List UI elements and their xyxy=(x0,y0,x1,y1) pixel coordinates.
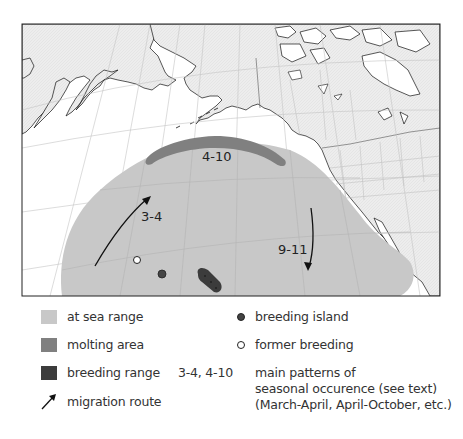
legend-pattern-code: 3-4, 4-10 xyxy=(178,365,243,381)
legend-pattern-description: main patterns of seasonal occurence (see… xyxy=(255,365,452,413)
former-breeding-icon xyxy=(237,341,245,349)
at-sea-range-swatch xyxy=(41,310,57,324)
legend-label: migration route xyxy=(67,394,161,409)
breeding-island-marker xyxy=(158,270,166,278)
legend-molting-area: molting area xyxy=(41,337,144,352)
molting-area-swatch xyxy=(41,338,57,352)
pattern-line: (March-April, April-October, etc.) xyxy=(255,397,452,413)
migration-arrow-icon xyxy=(41,392,57,410)
legend-breeding-island: breeding island xyxy=(237,309,348,324)
legend-label: molting area xyxy=(67,337,144,352)
pattern-line: seasonal occurence (see text) xyxy=(255,381,452,397)
fall-migration-label: 9-11 xyxy=(278,242,308,257)
pattern-line: main patterns of xyxy=(255,365,452,381)
legend-label: breeding range xyxy=(67,365,160,380)
former-breeding-marker xyxy=(134,257,141,264)
legend-former-breeding: former breeding xyxy=(237,337,353,352)
range-map: 4-10 3-4 9-11 xyxy=(0,0,463,300)
legend-label: at sea range xyxy=(67,309,143,324)
legend-label: breeding island xyxy=(255,309,348,324)
legend-breeding-range: breeding range xyxy=(41,365,160,380)
breeding-island-icon xyxy=(237,313,245,321)
legend-migration-route: migration route xyxy=(41,392,161,410)
breeding-range-swatch xyxy=(41,366,57,380)
legend-at-sea-range: at sea range xyxy=(41,309,143,324)
legend-label: former breeding xyxy=(255,337,353,352)
molting-period-label: 4-10 xyxy=(202,149,232,164)
spring-migration-label: 3-4 xyxy=(141,209,162,224)
